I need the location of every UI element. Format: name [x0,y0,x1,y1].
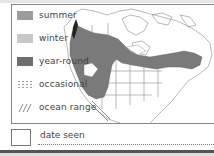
legend-label: year-round [39,56,89,66]
legend-label: occasional [39,79,87,89]
legend-item-occasional: occasional [17,79,87,89]
legend-label: winter [39,33,68,43]
range-map-card: summer winter year-round occasional ocea… [11,4,214,124]
date-seen-checkbox[interactable] [11,129,31,146]
legend-item-year-round: year-round [17,56,89,66]
date-seen-input-line[interactable] [38,144,214,145]
occasional-dots-icon [17,80,33,89]
winter-swatch [17,34,33,43]
date-seen-label: date seen [40,130,85,140]
top-strip [0,0,214,3]
legend-item-summer: summer [17,10,77,20]
ocean-hatch-icon [17,103,33,112]
legend-item-ocean-range: ocean range [17,102,96,112]
year-round-swatch [17,57,33,66]
legend-item-winter: winter [17,33,68,43]
legend-label: ocean range [39,102,96,112]
summer-swatch [17,11,33,20]
legend-label: summer [39,10,77,20]
bottom-strip [0,153,214,156]
